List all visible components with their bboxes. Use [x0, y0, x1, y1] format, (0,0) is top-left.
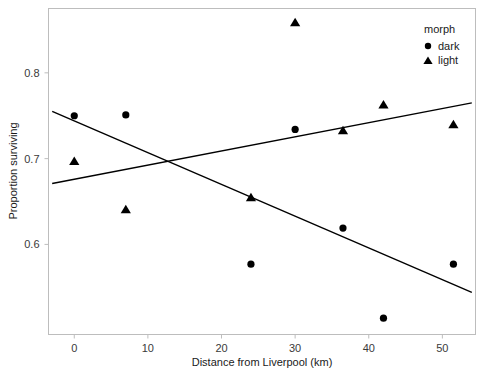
x-tick-label: 50 — [436, 342, 448, 354]
y-tick-label: 0.8 — [24, 67, 39, 79]
data-point-dark — [450, 261, 457, 268]
data-point-dark — [71, 112, 78, 119]
y-axis-label: Proportion surviving — [7, 122, 19, 219]
x-tick-label: 40 — [363, 342, 375, 354]
data-point-dark — [292, 126, 299, 133]
plot-canvas: 01020304050 0.60.70.8 Distance from Live… — [0, 0, 489, 379]
data-point-dark — [247, 261, 254, 268]
x-axis-label: Distance from Liverpool (km) — [192, 356, 333, 368]
data-point-dark — [339, 225, 346, 232]
x-tick-label: 30 — [289, 342, 301, 354]
y-tick-label: 0.7 — [24, 153, 39, 165]
data-point-dark — [122, 111, 129, 118]
data-point-dark — [380, 315, 387, 322]
legend-label-light: light — [438, 54, 458, 66]
x-tick-label: 0 — [71, 342, 77, 354]
x-tick-label: 20 — [215, 342, 227, 354]
figure-background — [0, 0, 489, 379]
x-tick-label: 10 — [142, 342, 154, 354]
y-tick-label: 0.6 — [24, 238, 39, 250]
legend-label-dark: dark — [438, 40, 460, 52]
legend-marker-dark-icon — [425, 43, 431, 49]
legend: morph dark light — [423, 23, 459, 66]
scatter-plot-figure: 01020304050 0.60.70.8 Distance from Live… — [0, 0, 489, 379]
legend-title: morph — [424, 23, 455, 35]
